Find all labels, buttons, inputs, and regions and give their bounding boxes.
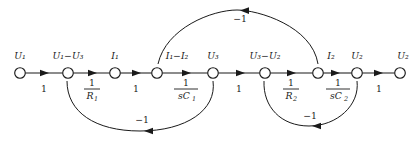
fraction-numerator: 1 (335, 77, 341, 88)
node-label-u1-minus-u3: U₁−U₃ (53, 50, 84, 61)
signal-flow-graph-canvas: U₁ U₁−U₃ I₁ I₁−I₂ U₃ U₃−U₂ I₂ U₂ U₂ 1 1 … (0, 0, 420, 154)
fraction-denominator-subscript: 1 (192, 95, 196, 103)
gain-label-1-over-r1: 1 R 1 (84, 77, 100, 103)
gain-label-1-over-sc1: 1 sC 1 (174, 77, 198, 103)
fraction-numerator: 1 (288, 77, 294, 88)
arrowhead-right-icon (374, 70, 383, 77)
node-label-u3-minus-u2: U₃−U₂ (250, 50, 281, 61)
feedback-gain-labels-group: −1 −1 −1 (135, 13, 317, 125)
node-i1[interactable] (110, 68, 121, 79)
node-label-u3: U₃ (207, 50, 219, 61)
feedback-gain-label-top: −1 (233, 13, 247, 24)
node-u1-minus-u3[interactable] (63, 68, 74, 79)
gain-label-n5-n6: 1 (236, 83, 242, 94)
feedback-gain-label-bottom-right: −1 (303, 110, 317, 121)
arrowhead-right-icon (331, 70, 340, 77)
signal-flow-graph-figure: U₁ U₁−U₃ I₁ I₁−I₂ U₃ U₃−U₂ I₂ U₂ U₂ 1 1 … (0, 0, 420, 154)
gain-label-1-over-r2: 1 R 2 (283, 77, 299, 103)
arrowhead-right-icon (40, 70, 49, 77)
arrowhead-right-icon (88, 70, 97, 77)
arrowhead-right-icon (182, 70, 191, 77)
arrowhead-left-icon (312, 123, 321, 130)
arrowhead-right-icon (236, 70, 245, 77)
node-label-i1-minus-i2: I₁−I₂ (165, 50, 189, 61)
feedback-gain-label-bottom-left: −1 (135, 114, 149, 125)
fraction-denominator-subscript: 2 (292, 95, 297, 103)
fraction-gain-labels-group: 1 R 1 1 sC 1 1 R 2 1 (84, 77, 350, 103)
node-u2-out[interactable] (395, 68, 406, 79)
gain-label-n8-n9: 1 (376, 83, 382, 94)
arrowhead-left-icon (144, 128, 153, 135)
node-labels-group: U₁ U₁−U₃ I₁ I₁−I₂ U₃ U₃−U₂ I₂ U₂ U₂ (14, 50, 409, 61)
node-label-u2-out: U₂ (397, 50, 409, 61)
fraction-denominator: R (285, 90, 293, 101)
gain-label-n1-n2: 1 (41, 83, 47, 94)
fraction-numerator: 1 (89, 77, 95, 88)
node-u3-minus-u2[interactable] (260, 68, 271, 79)
node-i2[interactable] (313, 68, 324, 79)
arrowhead-right-icon (132, 70, 141, 77)
fraction-numerator: 1 (183, 77, 189, 88)
fraction-denominator-subscript: 2 (343, 95, 348, 103)
fraction-denominator: R (86, 90, 94, 101)
gain-label-1-over-sc2: 1 sC 2 (326, 77, 350, 103)
node-u3[interactable] (208, 68, 219, 79)
gain-label-n3-n4: 1 (133, 83, 139, 94)
fraction-denominator: sC (330, 90, 342, 101)
fraction-denominator-subscript: 1 (94, 95, 98, 103)
arrowhead-right-icon (287, 70, 296, 77)
node-u1[interactable] (15, 68, 26, 79)
node-label-u1: U₁ (14, 50, 26, 61)
node-label-u2-mid: U₂ (351, 50, 363, 61)
node-i1-minus-i2[interactable] (152, 68, 163, 79)
node-label-i2: I₂ (326, 50, 335, 61)
node-label-i1: I₁ (110, 50, 118, 61)
node-u2-mid[interactable] (352, 68, 363, 79)
fraction-denominator: sC (178, 90, 190, 101)
